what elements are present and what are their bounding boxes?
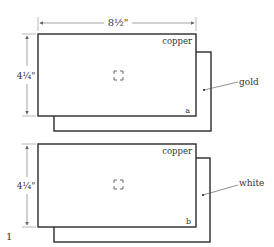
corner-letter-b: b [186,217,191,226]
front-card-copper [38,34,196,116]
front-label-b: copper [162,146,193,156]
front-card-copper [38,144,196,227]
height-label-a: 4¼" [17,71,36,81]
width-dimension: 8½" [38,17,196,31]
width-label: 8½" [108,17,129,28]
panel-b: 4¼" copper b white [17,144,265,242]
front-label-a: copper [162,36,193,46]
back-label-b: white [239,178,264,188]
figure-number: 1 [6,231,12,242]
height-label-b: 4¼" [17,181,36,191]
corner-letter-a: a [185,106,190,115]
panel-a: 4¼" copper a gold [17,34,259,131]
back-label-a: gold [239,77,259,87]
diagram: 8½" 4¼" copper a gold 4¼" copper b [0,0,274,247]
